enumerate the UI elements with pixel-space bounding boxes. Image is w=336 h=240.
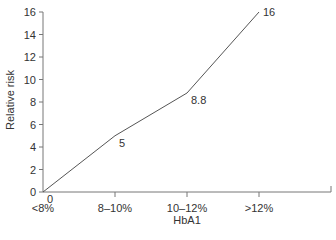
y-tick-label: 4 [30,141,36,153]
y-tick-label: 14 [24,29,36,41]
x-tick-label: 10–12% [167,202,208,214]
y-tick-label: 12 [24,51,36,63]
y-tick-label: 2 [30,164,36,176]
y-tick-label: 6 [30,119,36,131]
y-tick-label: 8 [30,96,36,108]
y-axis-title: Relative risk [4,70,16,130]
x-tick-label: 8–10% [98,202,132,214]
x-axis-title: HbA1 [173,214,201,226]
line-chart: 0246810121416 <8%8–10%10–12%>12% 058.816… [0,0,336,240]
data-point-label: 5 [119,137,125,149]
data-point-label: 16 [263,6,275,18]
x-tick-label: >12% [245,202,274,214]
y-tick-label: 16 [24,6,36,18]
y-axis: 0246810121416 [24,6,43,198]
y-tick-label: 0 [30,186,36,198]
y-tick-label: 10 [24,74,36,86]
data-point-label: 8.8 [191,94,206,106]
data-point-label: 0 [47,193,53,205]
x-axis: <8%8–10%10–12%>12% [32,186,331,214]
data-line [43,12,259,192]
